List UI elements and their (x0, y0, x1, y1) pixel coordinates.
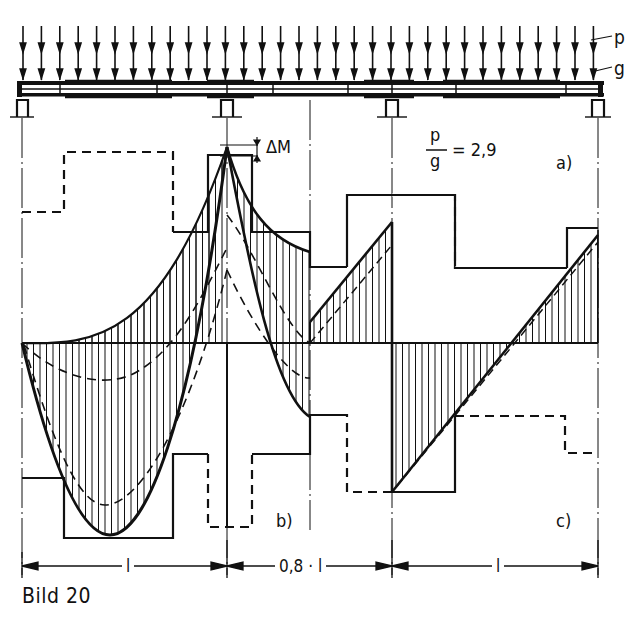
load-arrows (20, 26, 596, 80)
span-3-dimension: l (492, 556, 504, 576)
support-3 (377, 100, 407, 117)
dead-load-label: g (614, 57, 625, 79)
beam (17, 81, 604, 97)
span-1-dimension: l (122, 556, 134, 576)
figure-caption: Bild 20 (22, 584, 91, 608)
hatching (27, 160, 598, 535)
ratio-value: = 2,9 (452, 139, 496, 160)
support-4 (585, 100, 611, 117)
ratio-denominator: g (430, 150, 440, 171)
support-2 (212, 100, 242, 117)
panel-label-a: a) (556, 152, 572, 173)
beam-moment-shear-diagram (0, 0, 630, 619)
support-1 (10, 100, 34, 117)
panel-label-c: c) (556, 510, 571, 531)
panel-label-b: b) (276, 510, 293, 531)
live-load-label: p (614, 26, 625, 48)
ratio-numerator: p (430, 124, 440, 145)
span-2-dimension: 0,8 · l (275, 556, 326, 576)
moment-envelope (22, 147, 310, 535)
delta-m-label: ΔM (266, 136, 291, 157)
